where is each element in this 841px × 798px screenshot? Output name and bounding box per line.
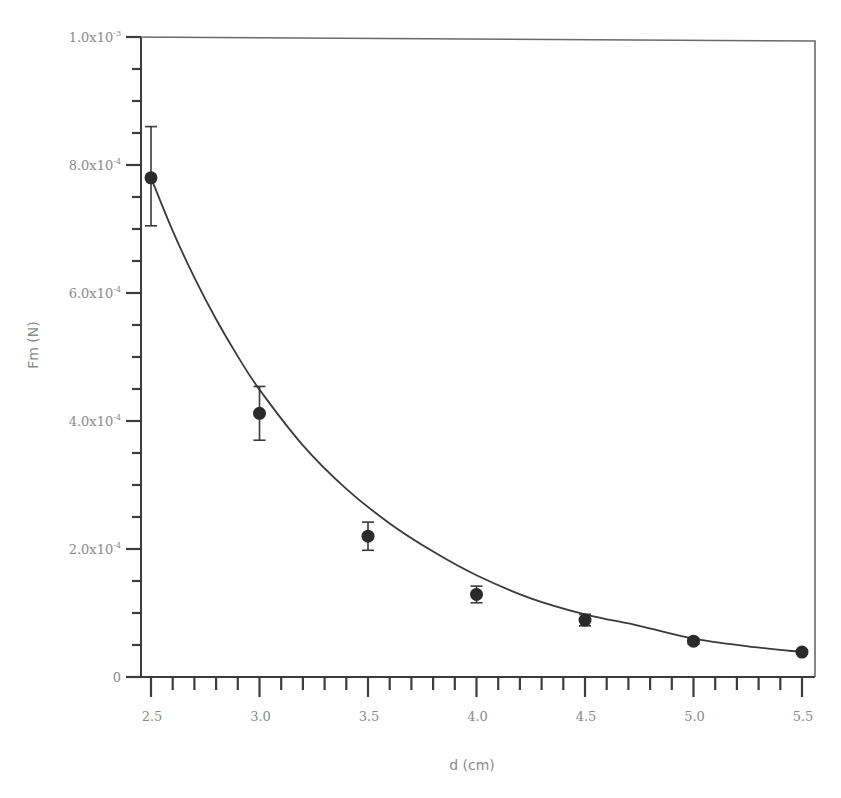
- data-point: [145, 127, 158, 226]
- y-axis-ticks: 02.0x10‑44.0x10‑46.0x10‑48.0x10‑41.0x10‑…: [69, 29, 141, 685]
- x-tick-label: 2.5: [142, 709, 163, 724]
- y-tick-label: 2.0x10‑4: [69, 541, 121, 557]
- x-axis-ticks: 2.53.03.54.04.55.05.5: [142, 677, 814, 724]
- force-vs-distance-chart: 02.0x10‑44.0x10‑46.0x10‑48.0x10‑41.0x10‑…: [0, 0, 841, 798]
- y-axis-label: Fm (N): [25, 321, 41, 369]
- data-point: [579, 614, 592, 627]
- fit-curve: [151, 178, 802, 652]
- x-axis-label: d (cm): [449, 757, 495, 773]
- point-marker: [579, 614, 592, 627]
- y-tick-label: 6.0x10‑4: [69, 285, 121, 301]
- y-tick-label: 0: [113, 670, 121, 685]
- plot-border: [129, 37, 815, 677]
- data-point: [687, 635, 700, 648]
- x-tick-label: 4.0: [467, 709, 488, 724]
- x-tick-label: 3.5: [359, 709, 380, 724]
- x-tick-label: 5.5: [793, 709, 814, 724]
- plot-frame: [129, 37, 815, 678]
- x-tick-label: 3.0: [250, 709, 271, 724]
- fit-line: [151, 178, 802, 652]
- y-tick-label: 1.0x10‑3: [69, 29, 121, 45]
- x-tick-label: 5.0: [684, 709, 705, 724]
- point-marker: [470, 588, 483, 601]
- point-marker: [145, 171, 158, 184]
- point-marker: [687, 635, 700, 648]
- y-tick-label: 8.0x10‑4: [69, 157, 121, 173]
- point-marker: [253, 407, 266, 420]
- data-point: [362, 522, 375, 550]
- point-marker: [796, 646, 809, 659]
- point-marker: [362, 530, 375, 543]
- y-tick-label: 4.0x10‑4: [69, 413, 121, 429]
- x-tick-label: 4.5: [576, 709, 597, 724]
- data-point: [470, 586, 483, 603]
- data-points: [145, 127, 809, 659]
- data-point: [796, 646, 809, 659]
